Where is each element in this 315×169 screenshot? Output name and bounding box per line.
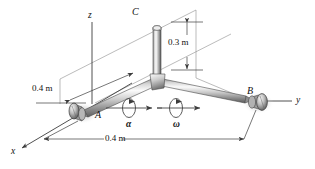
dim-label-0-3m: 0.3 m [168, 38, 189, 47]
axis-label-y: y [296, 96, 300, 106]
point-label-b: B [247, 86, 253, 96]
hub [150, 74, 165, 90]
mechanics-figure: z y x A B C 0.3 m 0.4 m 0.4 m α ω [0, 0, 315, 169]
bearing-b [248, 94, 267, 111]
arm-c [153, 25, 161, 82]
dim-label-0-4m-left: 0.4 m [32, 84, 53, 93]
arm-a [78, 77, 160, 117]
point-label-a: A [95, 110, 101, 120]
omega-symbol [157, 99, 200, 118]
axis-label-z: z [88, 11, 92, 21]
point-label-c: C [132, 7, 139, 17]
dim-label-0-4m-bottom: 0.4 m [105, 134, 126, 143]
omega-label: ω [173, 120, 180, 130]
alpha-label: α [126, 120, 131, 130]
axis-label-x: x [11, 147, 15, 157]
